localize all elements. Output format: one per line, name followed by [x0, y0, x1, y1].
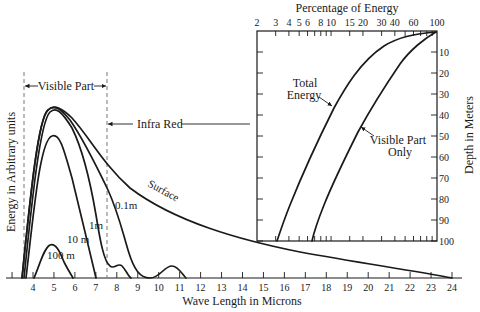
x-tick-label: 4: [31, 282, 36, 293]
x-axis-tick-labels: 456789101112131415161718192021222324: [31, 282, 458, 293]
x-tick-label: 9: [135, 282, 140, 293]
inset-x-tick-label: 5: [297, 17, 302, 28]
x-tick-label: 19: [342, 282, 352, 293]
infrared-label: Infra Red: [137, 117, 183, 131]
inset-y-axis-label: Depth in Meters: [462, 96, 476, 174]
x-tick-label: 11: [175, 282, 185, 293]
inset-y-tick-label: 70: [439, 173, 449, 184]
inset-x-tick-label: 6: [305, 17, 310, 28]
x-tick-label: 10: [154, 282, 164, 293]
label-total-line2: Energy: [287, 88, 321, 102]
label-visible-line2: Only: [388, 145, 412, 159]
inset-y-tick-labels: 102030405060708090100: [439, 47, 454, 247]
inset-x-tick-label: 2: [255, 17, 260, 28]
label-1m: 1m: [89, 219, 104, 231]
x-tick-label: 7: [93, 282, 98, 293]
inset-y-tick-label: 40: [439, 110, 449, 121]
x-tick-label: 18: [321, 282, 331, 293]
x-tick-label: 12: [196, 282, 206, 293]
inset-x-tick-label: 10: [326, 17, 336, 28]
label-10m: 10 m: [67, 233, 90, 245]
inset-y-tick-label: 80: [439, 194, 449, 205]
x-axis-ticks: [12, 272, 452, 278]
visible-part-label: Visible Part: [38, 79, 95, 93]
x-tick-label: 23: [426, 282, 436, 293]
inset-y-tick-label: 30: [439, 89, 449, 100]
label-surface: Surface: [146, 177, 181, 203]
x-tick-label: 5: [51, 282, 56, 293]
inset-x-tick-label: 20: [358, 17, 368, 28]
inset-x-tick-label: 100: [430, 17, 445, 28]
label-0-1m: 0.1m: [115, 199, 138, 211]
inset-x-tick-label: 15: [345, 17, 355, 28]
inset-x-tick-label: 4: [286, 17, 291, 28]
inset-y-tick-label: 50: [439, 131, 449, 142]
inset-chart: Percentage of Energy 2345681015203040601…: [255, 1, 477, 247]
inset-y-tick-label: 100: [439, 236, 454, 247]
inset-title: Percentage of Energy: [295, 1, 398, 15]
x-tick-label: 15: [258, 282, 268, 293]
inset-x-tick-labels: 234568101520304060100: [255, 17, 445, 28]
x-tick-label: 20: [363, 282, 373, 293]
x-tick-label: 16: [279, 282, 289, 293]
main-chart: 456789101112131415161718192021222324 Wav…: [4, 72, 462, 308]
inset-x-tick-label: 30: [377, 17, 387, 28]
inset-y-tick-label: 90: [439, 215, 449, 226]
inset-x-tick-label: 40: [390, 17, 400, 28]
x-tick-label: 17: [300, 282, 310, 293]
x-tick-label: 22: [405, 282, 415, 293]
inset-y-tick-label: 20: [439, 68, 449, 79]
x-tick-label: 21: [384, 282, 394, 293]
inset-x-tick-label: 8: [318, 17, 323, 28]
y-axis-label: Energy in Arbitrary units: [4, 112, 18, 232]
x-tick-label: 13: [217, 282, 227, 293]
inset-y-tick-label: 60: [439, 152, 449, 163]
chart: 456789101112131415161718192021222324 Wav…: [0, 0, 480, 312]
inset-y-tick-label: 10: [439, 47, 449, 58]
inset-x-tick-label: 60: [408, 17, 418, 28]
x-tick-label: 24: [447, 282, 457, 293]
label-100m: 100 m: [47, 249, 75, 261]
x-tick-label: 14: [238, 282, 248, 293]
x-tick-label: 8: [114, 282, 119, 293]
visible-pointer: [361, 127, 374, 136]
inset-x-tick-label: 3: [273, 17, 278, 28]
x-axis-label: Wave Length in Microns: [182, 294, 302, 308]
x-tick-label: 6: [72, 282, 77, 293]
